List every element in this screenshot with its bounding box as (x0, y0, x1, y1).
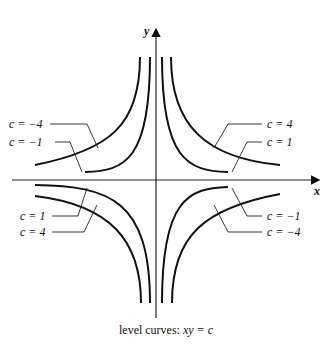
y-axis-label: y (144, 24, 149, 39)
curve-c-4-q3 (35, 196, 141, 303)
label-ul-inner: c = −1 (9, 136, 43, 148)
label-ll-outer: c = 4 (20, 226, 45, 238)
label-lr-inner: c = −1 (267, 210, 301, 222)
figure-caption: level curves: xy = c (0, 323, 332, 338)
label-ur-inner: c = 1 (267, 136, 292, 148)
label-ll-inner: c = 1 (20, 210, 45, 222)
caption-equation: xy = c (183, 323, 213, 337)
curve-c-neg4-q2 (35, 57, 140, 165)
caption-prefix: level curves: (119, 323, 183, 337)
curve-c-neg1-q2 (85, 57, 150, 172)
x-axis-label: x (314, 184, 320, 199)
curve-c-1-q3 (35, 185, 150, 303)
label-lr-outer: c = −4 (267, 226, 301, 238)
curve-c-neg4-q4 (172, 194, 280, 303)
curve-c-4-q1 (171, 57, 280, 165)
label-ul-outer: c = −4 (9, 118, 43, 130)
label-ur-outer: c = 4 (267, 118, 292, 130)
level-curves-diagram (0, 0, 332, 346)
